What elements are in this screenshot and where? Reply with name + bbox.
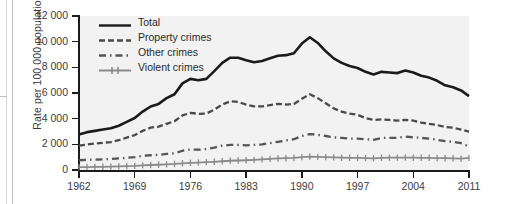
series-line-violent-crimes [79,157,469,168]
legend-label-total: Total [138,17,160,28]
legend-swatch-total [98,17,132,28]
legend-label-other-crimes: Other crimes [138,47,198,58]
legend-label-property-crimes: Property crimes [138,32,212,43]
legend-item-total: Total [98,16,212,29]
legend-item-other-crimes: Other crimes [98,46,212,59]
series-markers-violent-crimes [79,153,469,170]
legend-item-property-crimes: Property crimes [98,31,212,44]
series-line-other-crimes [79,134,469,160]
legend-swatch-property-crimes [98,32,132,43]
chart-legend: Total Property crimes Other crimes Viole… [98,16,212,74]
chart-figure: Rate per 100 000 population 02 0004 0006… [0,0,506,204]
legend-label-violent-crimes: Violent crimes [138,62,204,73]
legend-swatch-other-crimes [98,47,132,58]
legend-swatch-violent-crimes [98,62,132,73]
legend-item-violent-crimes: Violent crimes [98,61,212,74]
series-lines [0,0,506,204]
